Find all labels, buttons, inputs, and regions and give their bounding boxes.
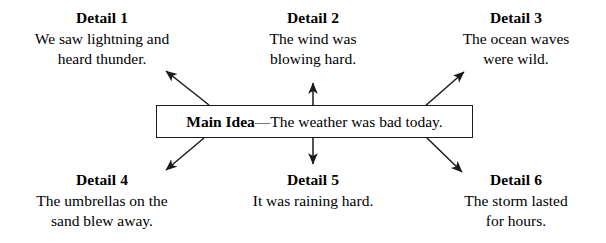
main-idea-box: Main Idea—The weather was bad today. [156,105,473,138]
arrow-to-detail-6 [427,138,462,172]
main-idea-details-diagram: Detail 1 We saw lightning and heard thun… [0,0,606,243]
main-idea-text: Main Idea—The weather was bad today. [186,113,442,131]
main-idea-label: Main Idea [186,113,254,130]
arrow-to-detail-1 [166,71,209,105]
main-idea-separator: — [255,113,271,130]
main-idea-statement: The weather was bad today. [270,113,442,130]
arrow-to-detail-4 [166,138,204,170]
arrow-to-detail-3 [424,72,464,107]
